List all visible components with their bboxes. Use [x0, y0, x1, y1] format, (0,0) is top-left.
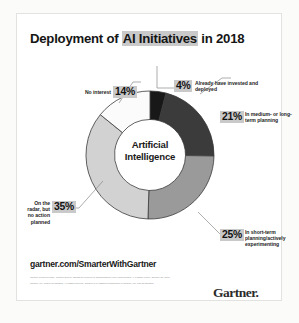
title-suffix: in 2018 — [198, 31, 244, 46]
slice-label-35: 35% — [52, 201, 76, 213]
slice-label-21: 21% — [220, 111, 244, 123]
title-highlight: AI Initiatives — [122, 31, 198, 46]
slice-label-4: 4% — [174, 80, 192, 92]
title-prefix: Deployment of — [30, 31, 122, 46]
gartner-logo-dot: . — [256, 285, 259, 300]
scan-page-background: Deployment of AI Initiatives in 2018 Art… — [0, 0, 299, 323]
slice-label-25: 25% — [220, 229, 244, 241]
donut-slice — [148, 156, 214, 219]
slice-description-25: In short-term planning/actively experime… — [245, 229, 297, 248]
donut-chart: Artificial Intelligence 4% Already have … — [17, 58, 283, 254]
slice-description-14: No interest — [68, 89, 111, 95]
leader-line-4 — [157, 66, 175, 88]
slice-label-14: 14% — [113, 86, 137, 98]
center-label-line2: Intelligence — [125, 151, 175, 162]
page-title: Deployment of AI Initiatives in 2018 — [30, 31, 275, 46]
slice-description-35: On the radar, but no action planned — [22, 200, 50, 225]
slice-description-21: In medium- or long-term planning — [245, 111, 293, 123]
center-label-line1: Artificial — [132, 139, 168, 150]
donut-slice — [86, 115, 149, 219]
fineprint-line: Gartner Press Release, 'Gartner Survey S… — [30, 276, 192, 280]
fineprint-disclaimer: Gartner Press Release, 'Gartner Survey S… — [30, 276, 192, 288]
gartner-logo: Gartner. — [213, 285, 258, 301]
gartner-url[interactable]: gartner.com/SmarterWithGartner — [30, 259, 156, 269]
gartner-logo-text: Gartner — [213, 285, 256, 300]
slice-description-4: Already have invested and deployed — [195, 80, 275, 92]
infographic-card: Deployment of AI Initiatives in 2018 Art… — [16, 13, 282, 301]
fineprint-line: Gartner, Inc. and/or its affiliates. All… — [30, 282, 192, 286]
donut-center-label: Artificial Intelligence — [110, 139, 190, 162]
